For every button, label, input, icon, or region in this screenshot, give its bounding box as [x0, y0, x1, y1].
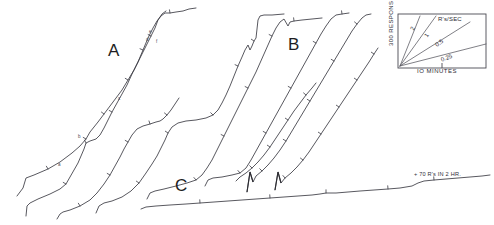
response-pip: [318, 132, 321, 134]
response-pip: [371, 52, 374, 54]
cumulative-curve-b1: [96, 14, 284, 213]
response-pip: [235, 65, 238, 66]
response-pip: [149, 121, 150, 124]
group-label-b: B: [288, 36, 300, 53]
response-pip: [63, 182, 66, 184]
rate-legend-box: 300 RESPONSES IO MINUTES R's/SEC 2 1 0.5…: [383, 12, 491, 78]
response-pip: [125, 78, 128, 80]
response-pip: [304, 93, 306, 95]
response-pip: [283, 176, 285, 178]
cumulative-curve-b3: [205, 13, 349, 186]
legend-rate-label-0-5: 0.5: [434, 38, 444, 48]
cumulative-curve-a3: [57, 98, 179, 219]
response-pip: [169, 10, 170, 13]
response-pip: [267, 145, 270, 147]
response-pip: [165, 131, 168, 133]
pen-reset-mark: [275, 172, 281, 190]
response-pip: [194, 178, 196, 180]
segment-label-e: e: [149, 30, 152, 35]
response-pip: [263, 131, 266, 133]
legend-rate-label-2: 2: [409, 26, 416, 31]
response-pip: [307, 99, 310, 101]
response-pip: [331, 59, 334, 61]
legend-rate-label-0-25: 0.25: [440, 53, 453, 63]
segment-label-b: b: [78, 135, 81, 140]
response-pip: [109, 110, 112, 112]
segment-label-a: a: [58, 163, 61, 168]
response-pip: [300, 158, 303, 160]
response-gain-annotation: + 70 R's IN 2 HR.: [414, 171, 461, 177]
legend-rate-unit-label: R's/SEC: [438, 16, 462, 22]
group-label-a: A: [108, 42, 120, 59]
group-label-c: C: [175, 177, 188, 194]
segment-label-f: f: [156, 40, 157, 45]
response-pip: [221, 135, 224, 136]
response-pip: [238, 171, 240, 173]
cumulative-curve-a1: [17, 11, 166, 196]
response-pip: [165, 113, 167, 115]
response-pip: [211, 113, 213, 115]
response-pip: [354, 78, 357, 80]
response-pip: [125, 140, 128, 142]
legend-rate-label-1: 1: [423, 32, 430, 38]
legend-y-axis-label: 300 RESPONSES: [388, 0, 394, 46]
response-pip: [260, 169, 262, 171]
response-pip: [288, 86, 291, 88]
response-pip: [250, 166, 252, 168]
response-pip: [355, 22, 357, 24]
segment-label-c: c: [118, 97, 120, 102]
response-pip: [107, 173, 110, 175]
segment-label-d: d: [146, 38, 149, 43]
cumulative-record-figure: A B C a b c d e f + 70 R's IN 2 HR. 300 …: [0, 0, 494, 225]
response-pip: [85, 140, 86, 143]
cumulative-curve-b6: [236, 83, 316, 181]
response-pip: [269, 35, 272, 36]
response-pip: [245, 87, 248, 88]
response-pip: [101, 112, 104, 114]
response-pip: [285, 118, 288, 120]
response-pip: [313, 41, 316, 43]
response-pip: [136, 181, 139, 183]
legend-x-axis-label: IO MINUTES: [400, 68, 474, 74]
cumulative-curve-b5: [275, 48, 378, 190]
response-pip: [78, 203, 80, 206]
response-pip: [283, 139, 286, 141]
response-pip: [251, 39, 254, 41]
pen-reset-mark: [247, 172, 253, 192]
cumulative-curve-b4: [247, 14, 371, 192]
response-pip: [336, 105, 339, 107]
cumulative-curve-a2: [26, 8, 196, 216]
response-pip: [83, 137, 86, 139]
response-pip: [140, 49, 143, 50]
cumulative-curve-c1: [141, 175, 490, 209]
response-pip: [46, 166, 48, 169]
